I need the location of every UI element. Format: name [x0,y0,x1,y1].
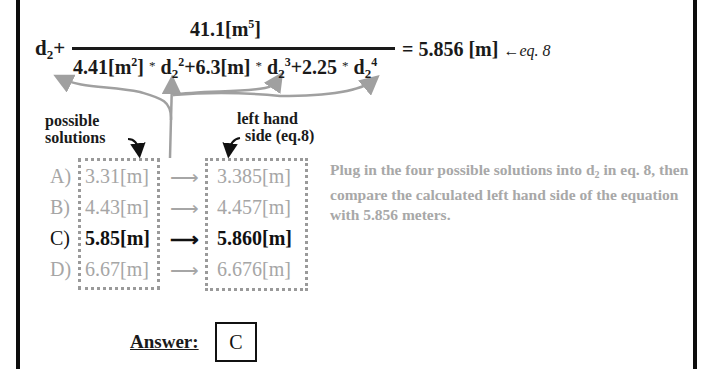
answer-box: C [215,322,257,362]
right-arrow-icon: ⟶ [170,258,199,282]
right-arrow-icon: ⟶ [170,227,199,251]
option-lhs-value: 3.385[m] [217,165,291,188]
possible-solutions-label: possiblesolutions [45,112,105,146]
left-arrow-icon: ← [503,42,519,59]
option-letter: C) [50,227,70,250]
instruction-text: Plug in the four possible solutions into… [330,160,690,225]
answer-label: Answer: [130,331,199,353]
right-arrow-icon: ⟶ [170,196,199,220]
option-lhs-value: 4.457[m] [217,196,291,219]
option-solution: 4.43[m] [85,196,149,219]
option-solution: 3.31[m] [85,165,149,188]
equation-reference: eq. 8 [519,42,550,59]
option-solution: 6.67[m] [85,258,149,281]
equation-rhs: = 5.856 [m] ←eq. 8 [402,38,551,61]
option-solution: 5.85[m] [85,227,150,250]
option-lhs-value: 6.676[m] [217,258,291,281]
fraction-numerator: 41.1[m5] [190,17,261,41]
left-hand-side-label: left handside (eq.8) [235,110,314,144]
fraction-bar [72,47,395,50]
right-arrow-icon: ⟶ [170,165,199,189]
option-letter: A) [50,165,71,188]
option-lhs-value: 5.860[m] [217,227,292,250]
fraction-denominator: 4.41[m2] * d22+6.3[m] * d23+2.25 * d24 [73,55,377,82]
equation-lhs-variable: d2+ [35,36,65,63]
option-letter: D) [50,258,71,281]
option-letter: B) [50,196,70,219]
